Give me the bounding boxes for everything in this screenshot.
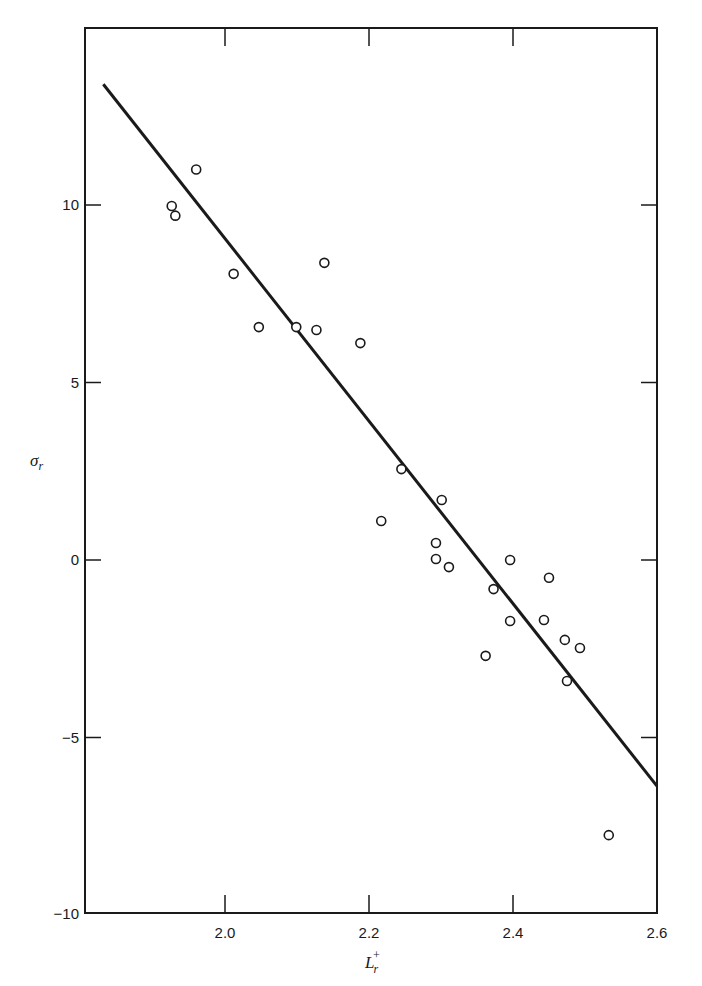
data-point	[229, 269, 238, 278]
data-point	[481, 651, 490, 660]
data-point	[444, 563, 453, 572]
data-point	[377, 516, 386, 525]
plot-frame	[85, 28, 657, 913]
data-point	[604, 831, 613, 840]
data-point	[575, 644, 584, 653]
y-axis-title: σr	[30, 451, 43, 473]
data-point	[292, 323, 301, 332]
y-tick-label: −5	[62, 729, 79, 746]
y-tick-label: 5	[71, 374, 79, 391]
data-point	[192, 165, 201, 174]
y-tick-label: −10	[54, 905, 79, 922]
data-point	[431, 538, 440, 547]
data-point	[320, 258, 329, 267]
x-tick-label: 2.4	[503, 924, 524, 941]
data-point	[563, 677, 572, 686]
data-point	[254, 323, 263, 332]
data-point	[356, 339, 365, 348]
data-point	[545, 573, 554, 582]
data-point	[167, 202, 176, 211]
data-points	[167, 165, 613, 840]
data-point	[437, 496, 446, 505]
data-point	[312, 325, 321, 334]
data-point	[171, 211, 180, 220]
x-axis-title: Lr+	[364, 948, 380, 976]
data-point	[506, 617, 515, 626]
y-tick-label: 10	[62, 196, 79, 213]
y-axis-ticks: −10−50510	[54, 196, 657, 922]
regression-line	[103, 84, 657, 786]
x-tick-label: 2.6	[647, 924, 668, 941]
x-tick-label: 2.2	[359, 924, 380, 941]
data-point	[539, 615, 548, 624]
y-tick-label: 0	[71, 551, 79, 568]
data-point	[506, 556, 515, 565]
data-point	[560, 635, 569, 644]
scatter-chart: 2.02.22.42.6 −10−50510 σr Lr+	[0, 0, 702, 986]
data-point	[489, 585, 498, 594]
x-axis-ticks: 2.02.22.42.6	[215, 28, 668, 941]
data-point	[431, 554, 440, 563]
x-tick-label: 2.0	[215, 924, 236, 941]
data-point	[397, 465, 406, 474]
